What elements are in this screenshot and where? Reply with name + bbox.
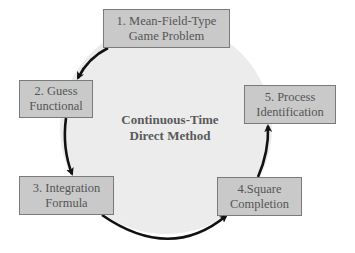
node-1-line1: 1. Mean-Field-Type [117, 14, 217, 29]
center-title: Continuous-Time Direct Method [105, 112, 235, 144]
node-1-line2: Game Problem [129, 29, 204, 44]
node-4-line1: 4.Square [237, 182, 281, 197]
node-square-completion: 4.Square Completion [217, 177, 302, 216]
node-3-line1: 3. Integration [33, 181, 100, 196]
node-2-line2: Functional [29, 99, 82, 114]
node-5-line1: 5. Process [265, 90, 316, 105]
center-title-line1: Continuous-Time [105, 112, 235, 128]
node-2-line1: 2. Guess [34, 84, 77, 99]
center-title-line2: Direct Method [105, 128, 235, 144]
node-guess-functional: 2. Guess Functional [19, 80, 93, 118]
node-process-identification: 5. Process Identification [244, 85, 336, 124]
node-5-line2: Identification [256, 105, 323, 120]
node-4-line2: Completion [230, 197, 289, 212]
node-integration-formula: 3. Integration Formula [19, 176, 114, 215]
node-3-line2: Formula [45, 196, 87, 211]
node-mean-field-type-game-problem: 1. Mean-Field-Type Game Problem [103, 9, 230, 48]
